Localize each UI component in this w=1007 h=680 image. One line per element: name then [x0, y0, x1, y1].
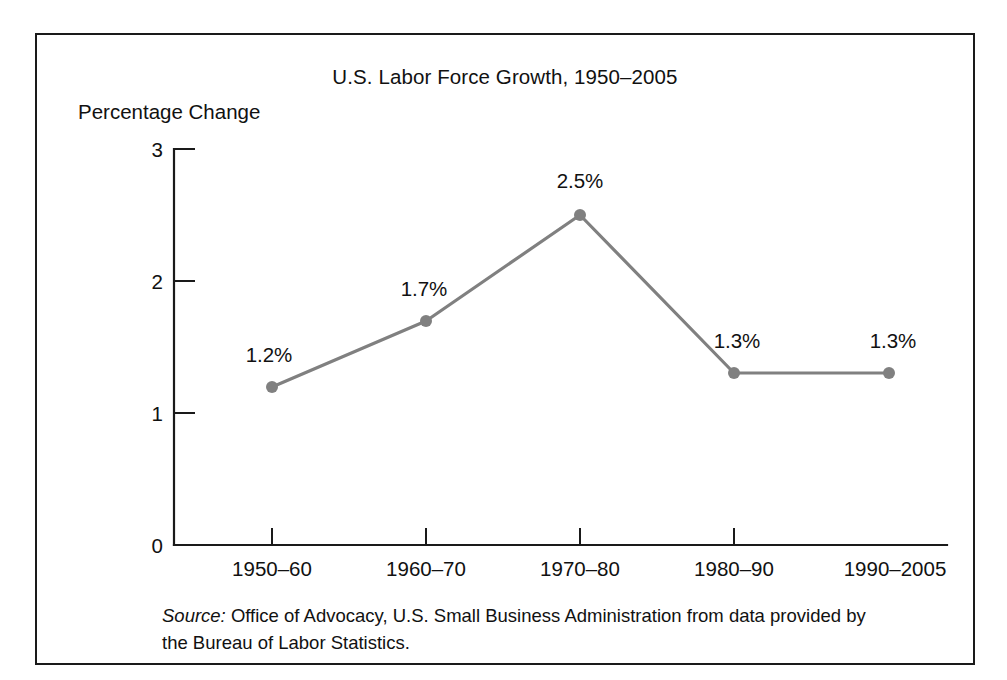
x-axis-tick-labels: 1950–60 1960–70 1970–80 1980–90 1990–200… — [232, 557, 946, 580]
data-label-1980-90: 1.3% — [714, 329, 761, 352]
x-tick-label-1: 1960–70 — [386, 557, 466, 580]
data-point-labels: 1.2% 1.7% 2.5% 1.3% 1.3% — [246, 169, 917, 366]
data-point-marker[interactable] — [728, 367, 740, 379]
y-axis-tick-labels: 3 2 1 0 — [152, 138, 163, 557]
line-chart-plot: 3 2 1 0 1950–60 1960–70 1970–80 1980–90 … — [37, 35, 973, 663]
data-point-markers — [266, 209, 895, 393]
x-tick-label-2: 1970–80 — [540, 557, 620, 580]
source-label: Source: — [162, 605, 226, 626]
data-series-line — [272, 215, 889, 387]
data-point-marker[interactable] — [883, 367, 895, 379]
data-label-1970-80: 2.5% — [557, 169, 604, 192]
y-tick-label-2: 2 — [152, 270, 163, 293]
x-axis-ticks — [272, 528, 734, 545]
source-note: Source: Office of Advocacy, U.S. Small B… — [162, 603, 882, 657]
data-point-marker[interactable] — [266, 381, 278, 393]
x-tick-label-4: 1990–2005 — [844, 557, 947, 580]
source-text: Office of Advocacy, U.S. Small Business … — [162, 605, 866, 653]
data-label-1990-2005: 1.3% — [870, 329, 917, 352]
data-point-marker[interactable] — [420, 315, 432, 327]
y-axis-ticks — [174, 149, 195, 413]
data-label-1950-60: 1.2% — [246, 343, 293, 366]
data-label-1960-70: 1.7% — [401, 277, 448, 300]
data-point-marker[interactable] — [574, 209, 586, 221]
x-tick-label-0: 1950–60 — [232, 557, 312, 580]
chart-figure-frame: U.S. Labor Force Growth, 1950–2005 Perce… — [35, 33, 975, 665]
y-tick-label-1: 1 — [152, 402, 163, 425]
x-tick-label-3: 1980–90 — [694, 557, 774, 580]
y-tick-label-0: 0 — [152, 534, 163, 557]
y-tick-label-3: 3 — [152, 138, 163, 161]
